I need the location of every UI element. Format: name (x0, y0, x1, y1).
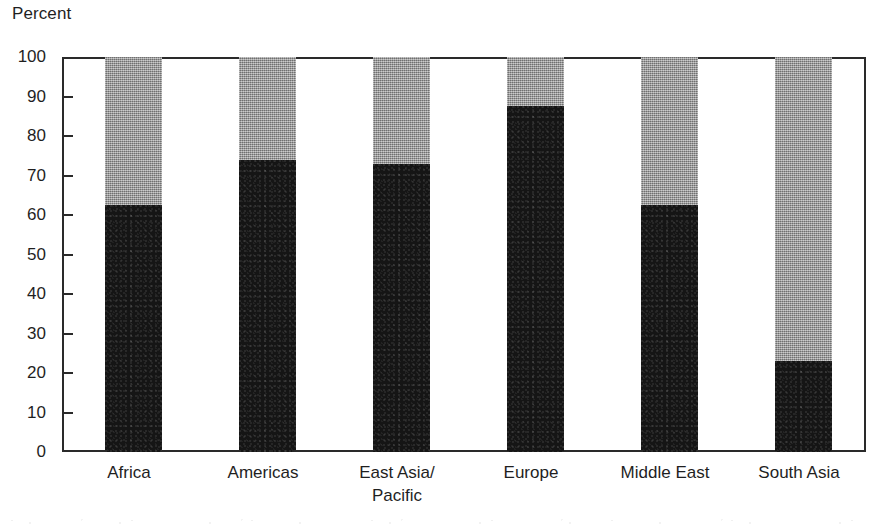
y-axis-tick-label: 80 (0, 126, 46, 146)
bar-segment-gray (775, 57, 832, 361)
bar-segment-gray (507, 57, 564, 106)
bar-segment-dark (373, 164, 430, 452)
y-axis-tick-mark (62, 214, 73, 216)
y-axis-tick-mark (62, 412, 73, 414)
y-axis-tick-label: 40 (0, 284, 46, 304)
y-axis-title: Percent (12, 4, 71, 24)
y-axis-tick-label: 100 (0, 47, 46, 67)
x-axis-category-label-line: East Asia/ (330, 461, 464, 484)
bar (105, 57, 162, 452)
y-axis-tick-mark (62, 293, 73, 295)
y-axis-tick-label: 20 (0, 363, 46, 383)
bar-segment-gray (239, 57, 296, 160)
bar-segment-dark (775, 361, 832, 452)
y-axis-tick-label: 60 (0, 205, 46, 225)
y-axis-tick-mark (62, 333, 73, 335)
y-axis-tick-mark (62, 175, 73, 177)
y-axis-tick-label: 10 (0, 403, 46, 423)
y-axis-tick-mark (62, 372, 73, 374)
x-axis-category-label: Americas (196, 461, 330, 484)
x-axis-category-label-line: Pacific (330, 484, 464, 507)
x-axis-category-label: Middle East (598, 461, 732, 484)
y-axis-tick-mark (62, 96, 73, 98)
x-axis-category-label-line: Europe (464, 461, 598, 484)
x-axis-category-label: South Asia (732, 461, 866, 484)
stacked-bar-chart: Percent 1009080706050403020100 AfricaAme… (0, 0, 875, 527)
x-axis-category-label-line: South Asia (732, 461, 866, 484)
y-axis-tick-mark (62, 135, 73, 137)
y-axis-tick-label: 70 (0, 166, 46, 186)
x-axis-category-label: Africa (62, 461, 196, 484)
x-axis-category-label-line: Middle East (598, 461, 732, 484)
bar-segment-dark (105, 205, 162, 452)
y-axis-tick-label: 0 (0, 442, 46, 462)
bar (775, 57, 832, 452)
bar-segment-gray (641, 57, 698, 205)
bar-segment-dark (641, 205, 698, 452)
y-axis-tick-label: 30 (0, 324, 46, 344)
bar (239, 57, 296, 452)
x-axis-category-label-line: Americas (196, 461, 330, 484)
bar-segment-gray (373, 57, 430, 164)
bar (641, 57, 698, 452)
y-axis-tick-mark (62, 254, 73, 256)
x-axis-category-label-line: Africa (62, 461, 196, 484)
y-axis-tick-label: 50 (0, 245, 46, 265)
bar-segment-gray (105, 57, 162, 205)
bar (373, 57, 430, 452)
x-axis-category-label: Europe (464, 461, 598, 484)
scan-artifact (0, 511, 875, 527)
bar (507, 57, 564, 452)
x-axis-category-label: East Asia/Pacific (330, 461, 464, 507)
bar-segment-dark (507, 106, 564, 452)
y-axis-tick-label: 90 (0, 87, 46, 107)
plot-area (62, 57, 866, 452)
bar-segment-dark (239, 160, 296, 452)
